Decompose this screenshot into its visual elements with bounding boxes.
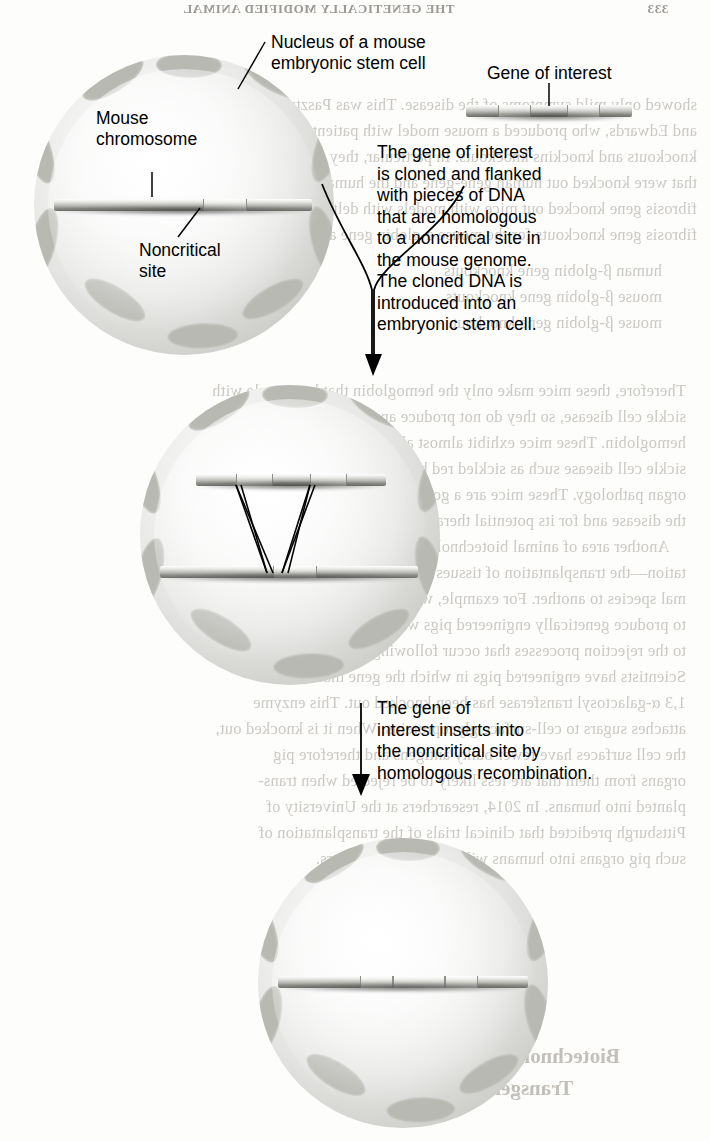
textbook-page: THE GENETICALLY MODIFIED ANIMAL 333 show…: [0, 0, 710, 1141]
leader-noncritical-site: [178, 208, 200, 237]
label-gene-of-interest: Gene of interest: [487, 63, 612, 84]
step-text-clone: The gene of interest is cloned and flank…: [377, 142, 541, 336]
leader-lines: [0, 0, 710, 1141]
label-noncritical-site: Noncritical site: [139, 240, 221, 282]
label-mouse-chromosome: Mouse chromosome: [96, 108, 197, 150]
step-text-recombine: The gene of interest inserts into the no…: [377, 698, 592, 784]
arrowhead: [365, 354, 382, 376]
leader-nucleus: [238, 42, 265, 89]
label-nucleus: Nucleus of a mouse embryonic stem cell: [271, 32, 426, 74]
step2-arrowhead: [348, 772, 376, 800]
